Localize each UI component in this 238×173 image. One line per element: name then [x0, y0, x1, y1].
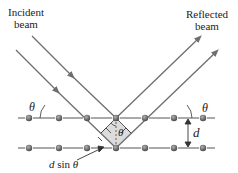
reflected-beam-label: Reflected beam — [183, 8, 231, 32]
path-diff-sin: sin — [57, 158, 70, 170]
path-diff-d: d — [49, 158, 55, 170]
reflected-label-line2: beam — [183, 20, 231, 32]
reflected-label-line1: Reflected — [183, 8, 231, 20]
d-spacing-arrow — [185, 119, 191, 147]
incident-label-line2: beam — [6, 18, 46, 30]
incident-beam-label: Incident beam — [6, 6, 46, 30]
d-spacing-label: d — [193, 127, 200, 139]
path-difference-label: d sin θ — [49, 158, 78, 170]
theta-center-label: θ — [118, 126, 123, 138]
theta-arc-right — [187, 105, 192, 118]
incident-label-line1: Incident — [6, 6, 46, 18]
incident-beams — [16, 36, 116, 148]
reflected-beams — [116, 38, 216, 148]
theta-left-label: θ — [29, 101, 35, 113]
theta-right-label: θ — [202, 102, 208, 114]
theta-arc-left — [40, 105, 45, 118]
path-diff-theta: θ — [73, 158, 78, 170]
